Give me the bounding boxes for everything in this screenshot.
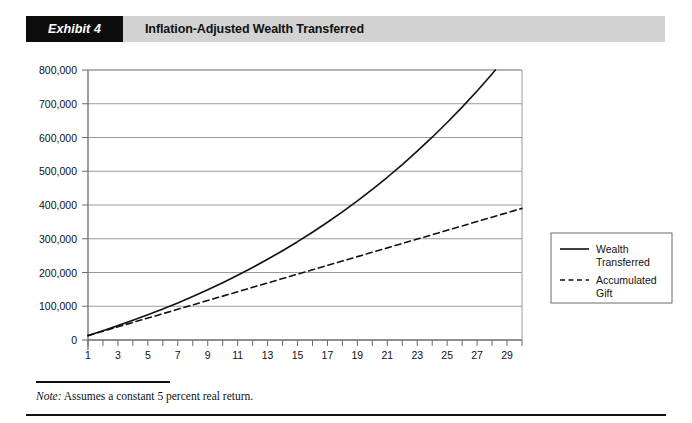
x-tick-label: 7 xyxy=(175,349,181,361)
y-tick-label: 100,000 xyxy=(39,300,77,312)
y-tick-label: 600,000 xyxy=(39,132,77,144)
x-tick-label: 3 xyxy=(115,349,121,361)
x-tick-label: 21 xyxy=(381,349,393,361)
x-tick-label: 9 xyxy=(205,349,211,361)
x-tick-label: 29 xyxy=(501,349,513,361)
x-tick-label: 13 xyxy=(262,349,274,361)
legend-label-line2: Gift xyxy=(596,287,612,299)
line-chart: 0100,000200,000300,000400,000500,000600,… xyxy=(0,50,692,370)
chart-container: 0100,000200,000300,000400,000500,000600,… xyxy=(0,50,692,370)
footnote: Note: Assumes a constant 5 percent real … xyxy=(36,390,636,402)
x-tick-label: 23 xyxy=(411,349,423,361)
note-divider-rule xyxy=(36,381,170,383)
legend-label-line2: Transferred xyxy=(596,256,650,268)
y-tick-label: 0 xyxy=(71,334,77,346)
data-series xyxy=(88,70,522,336)
gridlines xyxy=(88,70,522,306)
exhibit-title: Inflation-Adjusted Wealth Transferred xyxy=(123,16,665,42)
legend-label: Accumulated xyxy=(596,274,657,286)
x-tick-label: 15 xyxy=(292,349,304,361)
x-tick-label: 25 xyxy=(441,349,453,361)
y-tick-label: 700,000 xyxy=(39,98,77,110)
x-tick-label: 5 xyxy=(145,349,151,361)
y-axis-tick-labels: 0100,000200,000300,000400,000500,000600,… xyxy=(39,64,77,346)
x-tick-label: 1 xyxy=(85,349,91,361)
series-line-wealth-transferred xyxy=(88,70,495,335)
footer-note-block: Note: Assumes a constant 5 percent real … xyxy=(36,381,636,402)
y-tick-label: 400,000 xyxy=(39,199,77,211)
exhibit-number-label: Exhibit 4 xyxy=(26,16,123,42)
chart-legend: WealthTransferredAccumulatedGift xyxy=(551,233,672,303)
y-tick-label: 500,000 xyxy=(39,165,77,177)
x-axis-tick-labels: 1357911131517192123252729 xyxy=(85,349,513,361)
y-tick-label: 300,000 xyxy=(39,233,77,245)
footnote-lead: Note: xyxy=(36,390,62,402)
exhibit-header: Exhibit 4 Inflation-Adjusted Wealth Tran… xyxy=(26,16,665,42)
x-tick-label: 17 xyxy=(322,349,334,361)
legend-label: Wealth xyxy=(596,243,629,255)
x-tick-label: 11 xyxy=(232,349,243,361)
y-tick-label: 800,000 xyxy=(39,64,77,76)
y-tick-label: 200,000 xyxy=(39,267,77,279)
bottom-divider-rule xyxy=(26,414,666,416)
series-line-accumulated-gift xyxy=(88,208,522,335)
x-axis-ticks xyxy=(88,340,522,346)
x-tick-label: 19 xyxy=(352,349,364,361)
x-tick-label: 27 xyxy=(471,349,483,361)
footnote-text: Assumes a constant 5 percent real return… xyxy=(62,390,254,402)
y-axis-ticks xyxy=(82,70,88,340)
